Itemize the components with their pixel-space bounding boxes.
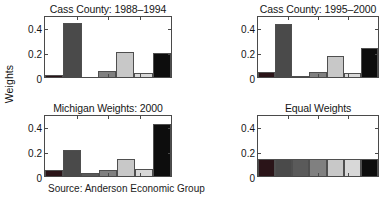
bar xyxy=(344,73,361,77)
bar xyxy=(258,72,275,77)
x-tick-mark xyxy=(140,116,141,119)
y-tick-mark xyxy=(375,54,378,55)
x-tick-mark xyxy=(288,74,289,77)
plot-area-bottom-left xyxy=(45,116,171,176)
y-tick-label: 0.4 xyxy=(28,24,42,35)
x-tick-mark xyxy=(77,17,78,20)
x-tick-mark xyxy=(108,116,109,119)
y-tick-mark xyxy=(375,153,378,154)
figure-canvas: Weights Cass County: 1988–1994 00.20.4 C… xyxy=(0,0,389,197)
figure-ylabel: Weights xyxy=(3,49,15,119)
y-tick-mark xyxy=(45,153,48,154)
chart-title-bottom-left: Michigan Weights: 2000 xyxy=(44,102,172,114)
x-tick-mark xyxy=(318,74,319,77)
y-tick-mark xyxy=(168,54,171,55)
x-tick-mark xyxy=(108,173,109,176)
bar xyxy=(134,73,152,77)
bar xyxy=(275,159,292,176)
axes-top-left: 00.20.4 xyxy=(44,16,172,78)
y-tick-mark xyxy=(258,128,261,129)
y-tick-mark xyxy=(258,54,261,55)
bar xyxy=(344,159,361,176)
x-tick-mark xyxy=(140,173,141,176)
x-tick-mark xyxy=(77,74,78,77)
chart-title-top-right: Cass County: 1995–2000 xyxy=(257,3,379,15)
x-tick-mark xyxy=(318,116,319,119)
chart-panel-bottom-left: Michigan Weights: 2000 00.20.4 xyxy=(44,115,172,177)
bar xyxy=(117,159,135,176)
x-tick-mark xyxy=(108,74,109,77)
y-tick-label: 0.2 xyxy=(241,49,255,60)
y-tick-label: 0.2 xyxy=(28,49,42,60)
bar xyxy=(153,53,171,77)
y-tick-label: 0 xyxy=(36,173,42,184)
y-tick-mark xyxy=(375,29,378,30)
bar xyxy=(45,170,63,176)
bar xyxy=(98,71,116,77)
x-tick-mark xyxy=(288,116,289,119)
y-tick-label: 0 xyxy=(36,74,42,85)
x-tick-mark xyxy=(348,17,349,20)
y-tick-mark xyxy=(168,128,171,129)
axes-bottom-right: 00.20.4 xyxy=(257,115,379,177)
x-tick-mark xyxy=(288,173,289,176)
y-tick-label: 0 xyxy=(249,173,255,184)
y-tick-mark xyxy=(45,54,48,55)
x-tick-mark xyxy=(348,116,349,119)
plot-area-bottom-right xyxy=(258,116,378,176)
plot-area-top-left xyxy=(45,17,171,77)
x-tick-mark xyxy=(140,74,141,77)
x-tick-mark xyxy=(288,17,289,20)
bar xyxy=(327,56,344,77)
x-tick-mark xyxy=(77,173,78,176)
bar xyxy=(81,173,99,176)
bar xyxy=(63,150,81,176)
plot-area-top-right xyxy=(258,17,378,77)
bar xyxy=(292,76,309,77)
bar xyxy=(153,124,171,176)
bar xyxy=(135,169,153,176)
chart-title-top-left: Cass County: 1988–1994 xyxy=(44,3,172,15)
y-tick-mark xyxy=(375,128,378,129)
bar xyxy=(361,48,378,77)
bar xyxy=(45,75,63,77)
bar xyxy=(275,24,292,77)
y-tick-mark xyxy=(258,153,261,154)
chart-panel-top-right: Cass County: 1995–2000 00.20.4 xyxy=(257,16,379,78)
x-tick-mark xyxy=(318,173,319,176)
y-tick-label: 0.2 xyxy=(28,148,42,159)
x-tick-mark xyxy=(77,116,78,119)
x-tick-mark xyxy=(318,17,319,20)
chart-panel-top-left: Cass County: 1988–1994 00.20.4 xyxy=(44,16,172,78)
x-tick-mark xyxy=(348,74,349,77)
x-tick-mark xyxy=(108,17,109,20)
y-tick-label: 0 xyxy=(249,74,255,85)
y-tick-mark xyxy=(45,29,48,30)
bar xyxy=(292,159,309,176)
axes-top-right: 00.20.4 xyxy=(257,16,379,78)
chart-panel-bottom-right: Equal Weights 00.20.4 xyxy=(257,115,379,177)
source-caption: Source: Anderson Economic Group xyxy=(48,183,205,194)
bar xyxy=(116,52,134,77)
bar xyxy=(361,159,378,176)
x-tick-mark xyxy=(140,17,141,20)
y-tick-label: 0.4 xyxy=(241,24,255,35)
bar xyxy=(258,159,275,176)
y-tick-mark xyxy=(168,153,171,154)
chart-title-bottom-right: Equal Weights xyxy=(257,102,379,114)
y-tick-label: 0.2 xyxy=(241,148,255,159)
y-tick-mark xyxy=(45,128,48,129)
y-tick-mark xyxy=(258,29,261,30)
axes-bottom-left: 00.20.4 xyxy=(44,115,172,177)
y-tick-label: 0.4 xyxy=(241,123,255,134)
bar xyxy=(327,159,344,176)
y-tick-mark xyxy=(168,29,171,30)
bar xyxy=(63,23,81,77)
y-tick-label: 0.4 xyxy=(28,123,42,134)
x-tick-mark xyxy=(348,173,349,176)
